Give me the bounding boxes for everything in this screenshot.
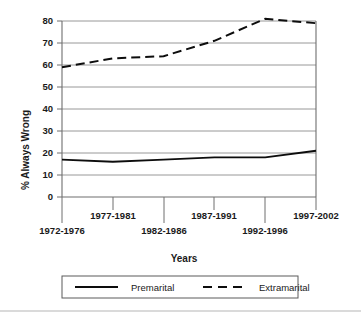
chart-legend: Premarital Extramarital — [62, 276, 310, 298]
x-tick-label-1982-1986: 1982-1986 — [141, 225, 186, 236]
x-tick-label-1997-2002: 1997-2002 — [293, 210, 338, 221]
x-tick-label-1992-1996: 1992-1996 — [242, 225, 287, 236]
x-tick-labels-upper: 1977-1981 1987-1991 1997-2002 — [90, 210, 338, 221]
y-tick-label-50: 50 — [42, 81, 53, 92]
y-tick-label-30: 30 — [42, 125, 53, 136]
x-tick-labels-lower: 1972-1976 1982-1986 1992-1996 — [39, 225, 287, 236]
legend-label-extramarital: Extramarital — [259, 282, 310, 293]
chart-figure: 80 70 60 50 40 30 20 10 0 % Always Wrong… — [0, 0, 361, 318]
x-tick-label-1972-1976: 1972-1976 — [39, 225, 84, 236]
y-tick-labels: 80 70 60 50 40 30 20 10 0 — [42, 15, 53, 202]
y-tick-label-40: 40 — [42, 103, 53, 114]
legend-label-premarital: Premarital — [131, 282, 174, 293]
y-tick-label-10: 10 — [42, 169, 53, 180]
y-tick-label-70: 70 — [42, 37, 53, 48]
x-axis-title: Years — [171, 253, 198, 264]
x-tick-label-1987-1991: 1987-1991 — [191, 210, 237, 221]
y-tick-label-0: 0 — [48, 191, 53, 202]
y-tick-label-80: 80 — [42, 15, 53, 26]
line-chart: 80 70 60 50 40 30 20 10 0 % Always Wrong… — [0, 0, 361, 318]
y-axis-title: % Always Wrong — [20, 110, 31, 190]
y-tick-label-20: 20 — [42, 147, 53, 158]
y-tick-label-60: 60 — [42, 59, 53, 70]
x-tick-label-1977-1981: 1977-1981 — [90, 210, 136, 221]
